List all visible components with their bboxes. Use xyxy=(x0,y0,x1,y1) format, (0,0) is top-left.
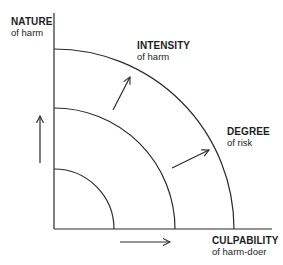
x-axis-label: CULPABILITY of harm-doer xyxy=(212,235,278,257)
intensity-label-sub: of harm xyxy=(137,51,190,62)
intensity-label: INTENSITY of harm xyxy=(137,40,190,62)
middle-arc xyxy=(54,108,175,229)
outer-arc xyxy=(54,49,234,229)
y-axis-label-sub: of harm xyxy=(11,27,53,38)
x-axis-label-main: CULPABILITY xyxy=(212,235,278,246)
degree-label-sub: of risk xyxy=(227,137,270,148)
intensity-label-main: INTENSITY xyxy=(137,40,190,51)
y-axis-label: NATURE of harm xyxy=(11,16,53,38)
x-axis-label-sub: of harm-doer xyxy=(212,246,278,257)
degree-label: DEGREE of risk xyxy=(227,126,270,148)
degree-arrow-icon xyxy=(172,150,209,168)
degree-label-main: DEGREE xyxy=(227,126,270,137)
y-axis-label-main: NATURE xyxy=(11,16,53,27)
intensity-arrow-icon xyxy=(113,77,130,110)
inner-arc xyxy=(54,169,114,229)
